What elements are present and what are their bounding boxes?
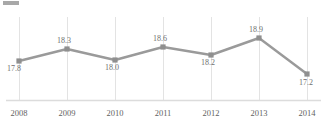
gridlines [20,17,308,100]
x-tick-label-2009: 2009 [51,108,83,118]
data-label-2014: 17.2 [299,78,313,87]
data-label-2013: 18.9 [249,25,263,34]
data-point-2013 [256,35,261,40]
line-chart: 17.8 18.3 18.0 18.6 18.2 18.9 17.2 2008 … [0,0,327,126]
x-tick-label-2012: 2012 [195,108,227,118]
data-label-2008: 17.8 [7,64,21,73]
data-label-2012: 18.2 [201,58,215,67]
data-point-2014 [304,71,309,76]
data-point-2009 [64,46,69,51]
data-label-2011: 18.6 [153,34,167,43]
data-point-2008 [16,58,21,63]
x-tick-label-2011: 2011 [147,108,179,118]
data-label-2010: 18.0 [105,63,119,72]
data-point-2010 [112,57,117,62]
data-label-2009: 18.3 [57,36,71,45]
x-tick-label-2008: 2008 [3,108,35,118]
data-point-2011 [160,44,165,49]
x-tick-label-2014: 2014 [291,108,323,118]
x-tick-label-2013: 2013 [243,108,275,118]
x-tick-label-2010: 2010 [99,108,131,118]
data-point-2012 [208,52,213,57]
